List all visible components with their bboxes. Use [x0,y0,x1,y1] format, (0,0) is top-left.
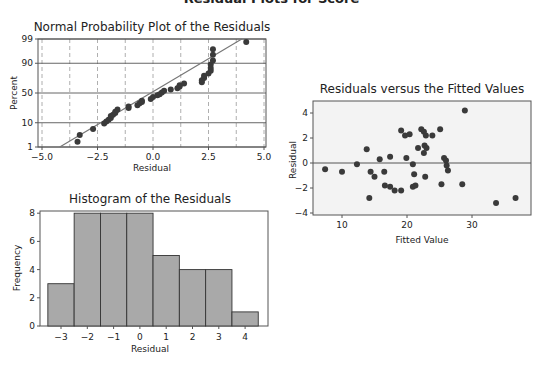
npp-point [161,88,167,94]
hist-y-tick-label: 8 [29,208,35,218]
rvf-y-tick-label: 4 [302,108,308,118]
npp-y-tick-label: 50 [22,88,34,98]
rvf-x-tick-label: 10 [336,220,348,230]
npp-point [114,106,120,112]
rvf-point [437,126,443,132]
rvf-point [392,188,398,194]
rvf-point [445,168,451,174]
hist-x-tick-label: 4 [242,332,248,342]
npp-y-axis: 110509099 [22,34,38,152]
hist-bar [100,213,126,326]
npp-y-label: Percent [9,76,19,110]
rvf-point [364,146,370,152]
rvf-y-tick-label: 2 [302,133,308,143]
rvf-x-axis: 102030 [336,215,478,230]
hist-x-tick-label: 3 [216,332,222,342]
hist-bar [127,213,153,326]
hist-bar [206,270,232,326]
rvf-x-tick-label: 30 [466,220,478,230]
hist-x-tick-label: 0 [137,332,143,342]
rvf-point [387,154,393,160]
rvf-point [422,174,428,180]
hist-y-tick-label: 0 [29,321,35,331]
hist-x-tick-label: −2 [81,332,94,342]
rvf-point [493,200,499,206]
rvf-x-label: Fitted Value [396,235,449,245]
hist-x-label: Residual [131,344,169,354]
rvf-point [410,161,416,167]
rvf-frame [313,101,531,215]
npp-y-tick-label: 10 [22,118,34,128]
npp-x-tick-label: 2.5 [201,152,215,162]
npp-x-label: Residual [133,163,171,173]
npp-point [77,132,83,138]
rvf-y-tick-label: −4 [295,208,309,218]
rvf-x-tick-label: 20 [401,220,413,230]
rvf-point [412,183,418,189]
hist-y-label: Frequency [12,244,22,291]
rvf-point [398,188,404,194]
normal-probability-plot: Normal Probability Plot of the Residuals… [9,20,271,173]
rvf-point [411,171,417,177]
rvf-point [366,195,372,201]
npp-point [75,139,81,145]
rvf-point [424,145,430,151]
hist-x-tick-label: 2 [190,332,196,342]
hist-x-tick-label: 1 [163,332,169,342]
npp-points [75,39,250,145]
rvf-y-label: Residual [288,141,298,179]
rvf-point [438,181,444,187]
rvf-point [407,131,413,137]
npp-y-tick-label: 1 [27,142,33,152]
npp-grid [38,39,266,147]
rvf-point [322,166,328,172]
rvf-point [381,169,387,175]
residuals-vs-fitted-plot: Residuals versus the Fitted Values 10203… [288,82,531,245]
rvf-y-tick-label: 0 [302,158,308,168]
hist-y-axis: 02468 [29,208,40,331]
rvf-point [372,174,378,180]
npp-point [210,57,216,63]
rvf-title: Residuals versus the Fitted Values [320,82,524,96]
npp-point [243,39,249,45]
hist-x-tick-label: −3 [54,332,67,342]
residual-plots-figure: Normal Probability Plot of the Residuals… [0,0,543,365]
npp-y-tick-label: 90 [22,58,34,68]
hist-bar [74,213,100,326]
rvf-point [423,133,429,139]
npp-x-axis: −5.0−2.50.02.55.0 [31,147,271,162]
rvf-point [415,145,421,151]
rvf-point [403,155,409,161]
rvf-point [398,128,404,134]
npp-point [139,98,145,104]
npp-x-tick-label: 5.0 [257,152,272,162]
histogram-plot: Histogram of the Residuals −3−2−101234 0… [12,192,268,354]
hist-title: Histogram of the Residuals [69,192,231,206]
rvf-point [513,195,519,201]
hist-y-tick-label: 2 [29,293,35,303]
npp-point [210,52,216,58]
npp-point [210,46,216,52]
npp-point [90,126,96,132]
hist-bar [153,256,179,327]
hist-x-axis: −3−2−101234 [54,326,248,342]
hist-y-tick-label: 4 [29,265,35,275]
hist-bar [179,270,205,326]
hist-bar [48,284,74,326]
rvf-point [459,181,465,187]
hist-bar [232,312,258,326]
hist-y-tick-label: 6 [29,236,35,246]
rvf-point [429,133,435,139]
hist-x-tick-label: −1 [107,332,120,342]
npp-y-tick-label: 99 [22,34,34,44]
rvf-point [462,108,468,114]
rvf-point [382,183,388,189]
npp-x-tick-label: −2.5 [87,152,109,162]
npp-x-tick-label: 0.0 [146,152,161,162]
npp-title: Normal Probability Plot of the Residuals [34,20,271,34]
rvf-point [368,169,374,175]
npp-point [168,86,174,92]
npp-point [126,104,132,110]
rvf-point [377,156,383,162]
rvf-point [354,161,360,167]
